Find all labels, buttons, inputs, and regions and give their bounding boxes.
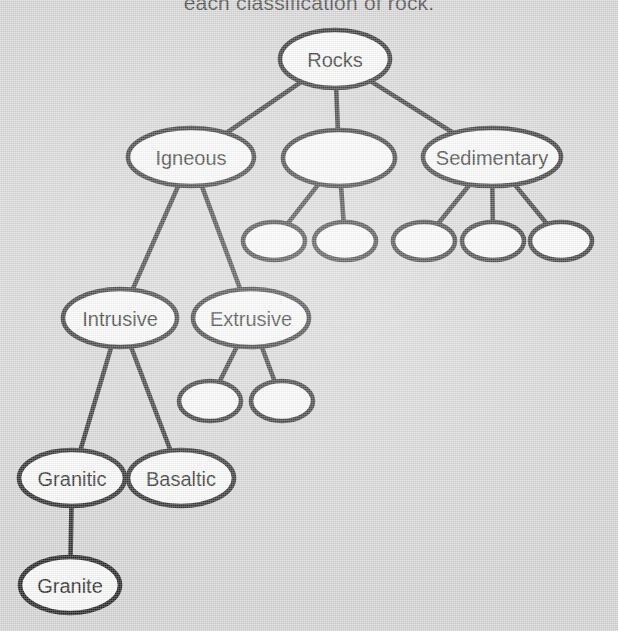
edge-igneous-to-extrusive (202, 186, 241, 290)
node-blank-mid[interactable] (283, 130, 395, 186)
node-blank-m1[interactable] (243, 222, 305, 260)
node-label-intrusive: Intrusive (82, 308, 158, 330)
node-label-granitic: Granitic (38, 468, 107, 490)
node-ellipse-blank[interactable] (243, 222, 305, 260)
node-ellipse-blank[interactable] (393, 222, 455, 260)
node-blank-s1[interactable] (393, 222, 455, 260)
node-layer: RocksIgneousSedimentaryIntrusiveExtrusiv… (19, 30, 592, 613)
node-ellipse-blank[interactable] (283, 130, 395, 186)
node-ellipse-blank[interactable] (314, 222, 376, 260)
node-label-basaltic: Basaltic (146, 468, 216, 490)
node-rocks[interactable]: Rocks (280, 30, 390, 88)
edge-rocks-to-sedimentary (370, 81, 453, 133)
node-ellipse-blank[interactable] (462, 222, 524, 260)
node-blank-e1[interactable] (179, 381, 241, 421)
edge-intrusive-to-granitic (80, 347, 111, 451)
node-blank-s2[interactable] (462, 222, 524, 260)
edge-intrusive-to-basaltic (131, 346, 171, 450)
edge-granitic-to-granite (71, 506, 72, 557)
edge-rocks-to-igneous (226, 82, 301, 133)
edge-igneous-to-intrusive (132, 185, 178, 289)
node-granitic[interactable]: Granitic (19, 450, 125, 506)
edge-rocks-to-blank-mid (336, 88, 338, 130)
rock-classification-concept-map: RocksIgneousSedimentaryIntrusiveExtrusiv… (0, 0, 618, 631)
node-blank-e2[interactable] (251, 381, 313, 421)
node-blank-s3[interactable] (530, 222, 592, 260)
worksheet-page: each classification of rock. RocksIgneou… (0, 0, 618, 631)
node-granite[interactable]: Granite (20, 557, 120, 613)
worksheet-instruction-text: each classification of rock. (0, 0, 618, 15)
node-label-sedimentary: Sedimentary (436, 147, 548, 169)
edge-sedimentary-to-blank-s3 (515, 184, 548, 224)
edge-blank-mid-to-blank-m2 (341, 186, 344, 222)
node-intrusive[interactable]: Intrusive (63, 289, 177, 347)
node-label-igneous: Igneous (155, 147, 226, 169)
edge-sedimentary-to-blank-s1 (438, 184, 470, 224)
node-ellipse-blank[interactable] (179, 381, 241, 421)
edge-extrusive-to-blank-e1 (219, 346, 237, 382)
node-ellipse-blank[interactable] (530, 222, 592, 260)
node-extrusive[interactable]: Extrusive (193, 289, 309, 347)
edge-extrusive-to-blank-e2 (262, 347, 275, 382)
node-sedimentary[interactable]: Sedimentary (423, 128, 561, 186)
node-basaltic[interactable]: Basaltic (128, 450, 234, 506)
node-igneous[interactable]: Igneous (128, 128, 254, 186)
node-label-rocks: Rocks (307, 49, 363, 71)
node-label-granite: Granite (37, 575, 103, 597)
edge-blank-mid-to-blank-m1 (287, 184, 318, 224)
node-blank-m2[interactable] (314, 222, 376, 260)
node-label-extrusive: Extrusive (210, 308, 292, 330)
node-ellipse-blank[interactable] (251, 381, 313, 421)
